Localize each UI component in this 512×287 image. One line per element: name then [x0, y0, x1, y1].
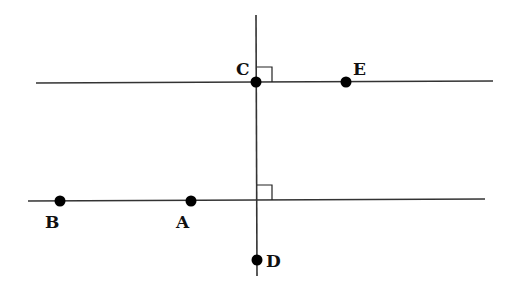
point-label: A [175, 212, 190, 232]
point-dot-icon [252, 255, 263, 266]
transversal [256, 15, 257, 276]
right-angle-icon [257, 185, 272, 200]
point-dot-icon [251, 77, 262, 88]
geometry-diagram: CEBAD [0, 0, 512, 287]
point-c: C [236, 59, 262, 88]
lines-group [28, 15, 493, 276]
point-d: D [252, 251, 282, 271]
point-label: E [353, 59, 366, 79]
point-label: C [236, 59, 250, 79]
point-dot-icon [55, 196, 66, 207]
point-label: D [266, 251, 281, 271]
point-dot-icon [341, 77, 352, 88]
points-group: CEBAD [45, 59, 366, 271]
top-line [36, 81, 493, 83]
point-dot-icon [186, 196, 197, 207]
right-angle-markers [257, 67, 272, 200]
point-label: B [45, 212, 59, 232]
point-e: E [341, 59, 367, 88]
